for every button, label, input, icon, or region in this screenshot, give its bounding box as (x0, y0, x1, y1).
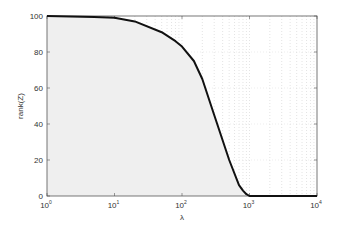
chart: 100101102103104 020406080100 λ rank(Z) (0, 0, 339, 229)
y-tick-label: 40 (34, 120, 43, 129)
x-tick-label: 104 (310, 199, 322, 210)
y-tick-label: 0 (39, 192, 44, 201)
x-tick-label: 102 (175, 199, 187, 210)
x-tick-label: 101 (108, 199, 120, 210)
x-tick-label: 103 (243, 199, 255, 210)
y-tick-label: 60 (34, 84, 43, 93)
y-axis-label: rank(Z) (16, 93, 25, 119)
y-tick-labels: 020406080100 (30, 12, 44, 201)
y-tick-label: 80 (34, 48, 43, 57)
y-tick-label: 20 (34, 156, 43, 165)
y-tick-label: 100 (30, 12, 44, 21)
x-axis-label: λ (180, 213, 184, 222)
x-tick-labels: 100101102103104 (40, 199, 322, 210)
